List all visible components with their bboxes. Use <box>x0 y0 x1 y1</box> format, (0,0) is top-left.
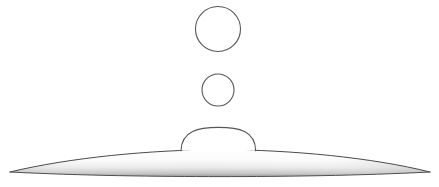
upper-droplet-group <box>196 7 241 52</box>
middle-droplet-group <box>202 74 234 106</box>
sessile-drop-group <box>181 127 256 151</box>
middle-droplet <box>202 74 234 106</box>
upper-droplet <box>196 7 241 52</box>
droplet-diagram-canvas <box>0 0 439 187</box>
substrate-lens-sheen <box>10 150 430 177</box>
substrate-lens-group <box>10 150 430 177</box>
